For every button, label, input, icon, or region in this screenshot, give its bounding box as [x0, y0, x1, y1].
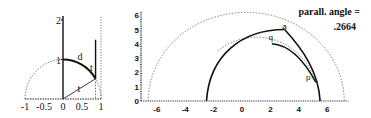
x-tick-label: 4	[297, 105, 302, 114]
y-tick-label: 5	[135, 26, 140, 35]
descending-arc	[285, 30, 321, 102]
x-tick-label: 0	[61, 101, 66, 112]
y-tick-label: 2	[56, 15, 61, 26]
x-tick-label: -2	[210, 105, 218, 114]
annotation-label: t	[90, 62, 93, 73]
x-tick-label: -1	[21, 101, 29, 112]
x-tick-label: -0.5	[36, 101, 52, 112]
outer-circle	[148, 12, 344, 101]
y-tick-label: 0	[135, 97, 140, 106]
parallel-angle-value: .2664	[334, 21, 357, 32]
point-label-p: p	[306, 73, 311, 82]
x-tick-label: 6	[325, 105, 330, 114]
x-tick-label: -4	[182, 105, 190, 114]
y-tick-label: 6	[135, 11, 140, 20]
y-tick-label: 2	[135, 68, 140, 77]
right-chart: 0123456-6-4-20246aqpparall. angle =.2664	[135, 6, 361, 114]
annotation-label: d	[78, 51, 83, 62]
parallel-angle-label: parall. angle =	[298, 6, 360, 17]
figure: -1-0.500.5112dtt 0123456-6-4-20246aqppar…	[0, 0, 371, 118]
y-tick-label: 1	[135, 83, 140, 92]
x-tick-label: -6	[153, 105, 161, 114]
point-label-q: q	[269, 33, 273, 42]
point-label-a: a	[282, 22, 287, 31]
y-tick-label: 4	[135, 40, 140, 49]
x-tick-label: 0.5	[76, 101, 89, 112]
y-tick-label: 3	[135, 54, 140, 63]
x-tick-label: 2	[268, 105, 273, 114]
left-chart: -1-0.500.5112dtt	[21, 15, 104, 112]
x-tick-label: 1	[99, 101, 104, 112]
annotation-label: t	[78, 83, 81, 94]
x-tick-label: 0	[240, 105, 245, 114]
